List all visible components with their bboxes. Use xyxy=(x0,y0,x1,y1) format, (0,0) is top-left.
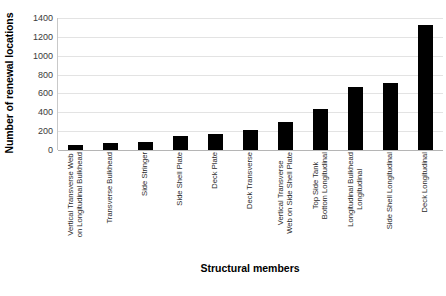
x-axis-tick-slot: Side Shell Longitudinal xyxy=(373,152,408,260)
bar-slot xyxy=(303,18,338,150)
x-axis-title-text: Structural members xyxy=(200,262,299,274)
x-axis-tick-slot: Deck Transverse xyxy=(232,152,267,260)
y-axis-tick-label: 1200 xyxy=(33,32,53,42)
y-axis-title: Number of renewal locations xyxy=(0,0,18,165)
x-axis-tick-label: Longitudinal BulkheadLongitudinal xyxy=(346,152,364,227)
x-axis-tick-slot: Vertical TransverseWeb on Side Shell Pla… xyxy=(268,152,303,260)
x-axis-tick-label: Vertical Transverse Webon Longitudinal B… xyxy=(65,152,83,237)
x-axis-tick-label: Deck Plate xyxy=(210,152,219,189)
bar-series xyxy=(58,18,443,150)
bar-slot xyxy=(408,18,443,150)
x-axis-tick-label: Side Stringer xyxy=(140,152,149,196)
bar-slot xyxy=(338,18,373,150)
bar-slot xyxy=(163,18,198,150)
x-axis-tick-slot: Side Stringer xyxy=(127,152,162,260)
y-axis-tick-labels: 0200400600800100012001400 xyxy=(18,18,56,150)
bar-slot xyxy=(128,18,163,150)
bar xyxy=(243,130,258,150)
bar xyxy=(173,136,188,150)
y-axis-title-text: Number of renewal locations xyxy=(3,12,15,153)
bar-slot xyxy=(268,18,303,150)
x-axis-tick-label: Deck Longitudinal xyxy=(421,152,430,212)
plot-area xyxy=(57,18,443,150)
x-axis-title: Structural members xyxy=(57,262,443,274)
bar-slot xyxy=(198,18,233,150)
y-axis-tick-label: 0 xyxy=(48,145,53,155)
bar xyxy=(383,83,398,150)
x-axis-tick-slot: Deck Plate xyxy=(197,152,232,260)
axis-baseline xyxy=(58,150,443,151)
x-axis-tick-label: Side Shell Longitudinal xyxy=(386,152,395,229)
x-axis-tick-slot: Top Side TankBottom Longitudinal xyxy=(303,152,338,260)
x-axis-tick-slot: Vertical Transverse Webon Longitudinal B… xyxy=(57,152,92,260)
x-axis-tick-label: Transverse Bulkhead xyxy=(105,152,114,223)
bar-chart-figure: Number of renewal locations 020040060080… xyxy=(0,0,446,296)
bar xyxy=(208,134,223,151)
x-axis-tick-label: Top Side TankBottom Longitudinal xyxy=(311,152,329,219)
cropped-caption-strip xyxy=(0,0,446,9)
x-axis-tick-slot: Side Shell Plate xyxy=(162,152,197,260)
x-axis-tick-slot: Transverse Bulkhead xyxy=(92,152,127,260)
bar-slot xyxy=(58,18,93,150)
bar xyxy=(278,122,293,150)
x-axis-tick-label: Side Shell Plate xyxy=(175,152,184,206)
bar xyxy=(138,142,153,150)
x-axis-tick-slot: Deck Longitudinal xyxy=(408,152,443,260)
bar xyxy=(68,145,83,150)
bar xyxy=(348,87,363,150)
bar xyxy=(418,25,433,150)
y-axis-tick-label: 400 xyxy=(38,107,53,117)
x-axis-tick-slot: Longitudinal BulkheadLongitudinal xyxy=(338,152,373,260)
x-axis-tick-label: Deck Transverse xyxy=(245,152,254,209)
y-axis-tick-label: 1000 xyxy=(33,51,53,61)
y-axis-tick-label: 200 xyxy=(38,126,53,136)
y-axis-tick-label: 800 xyxy=(38,70,53,80)
bar-slot xyxy=(93,18,128,150)
x-axis-tick-labels: Vertical Transverse Webon Longitudinal B… xyxy=(57,152,443,260)
x-axis-tick-label: Vertical TransverseWeb on Side Shell Pla… xyxy=(276,152,294,234)
bar xyxy=(313,109,328,150)
bar-slot xyxy=(373,18,408,150)
bar-slot xyxy=(233,18,268,150)
y-axis-tick-label: 600 xyxy=(38,88,53,98)
bar xyxy=(103,143,118,150)
y-axis-tick-label: 1400 xyxy=(33,13,53,23)
